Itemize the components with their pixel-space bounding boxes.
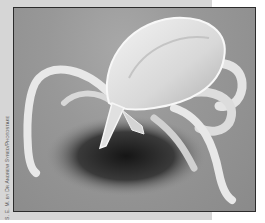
specimen-shadow bbox=[46, 116, 206, 196]
photo-credit: S. E. M. by Dr Andrew Syred/Photostake bbox=[1, 110, 13, 220]
frame-band-bottom bbox=[0, 212, 212, 220]
sem-photo-tick bbox=[13, 7, 256, 212]
tick-illustration bbox=[14, 8, 256, 212]
